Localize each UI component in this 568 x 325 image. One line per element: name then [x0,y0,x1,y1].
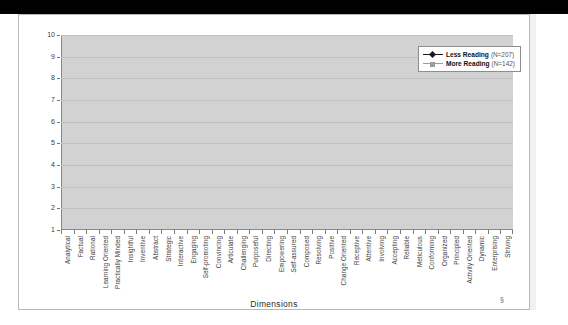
x-axis-tick-label: Empowering [278,236,285,272]
x-axis-tick [500,230,501,234]
y-axis-tick-label: 10 [47,31,55,39]
x-axis-tick-label: Involving [378,236,385,262]
x-axis-tick [337,230,338,234]
x-axis-tick [136,230,137,234]
x-axis-tick [111,230,112,234]
top-black-bar [0,0,568,14]
legend-item[interactable]: Less Reading (N=207) [423,50,515,59]
y-axis-tick-label: 7 [51,96,55,104]
x-axis-tick [287,230,288,234]
y-axis-tick [57,100,60,101]
y-axis-tick-label: 6 [51,118,55,126]
x-axis-tick-label: Inventive [139,236,146,262]
x-axis-tick [312,230,313,234]
x-axis-tick [350,230,351,234]
x-axis-tick-label: Analytical [64,236,71,264]
gridline [61,78,513,79]
x-axis-tick-label: Self-promoting [202,236,209,278]
x-axis-tick-label: Rational [89,236,96,260]
y-axis-tick [57,165,60,166]
y-axis-tick [57,35,60,36]
y-axis-tick [57,230,60,231]
gridline [61,100,513,101]
y-axis-tick-label: 8 [51,74,55,82]
x-axis-tick-label: Insightful [127,236,134,262]
gridline [61,187,513,188]
x-axis-tick [387,230,388,234]
x-axis-tick-label: Composed [303,236,310,267]
gridline [61,122,513,123]
x-axis-tick-label: Factual [77,236,84,257]
y-axis-tick-label: 2 [51,204,55,212]
x-axis-tick [463,230,464,234]
gridline [61,208,513,209]
x-axis-tick [237,230,238,234]
x-axis-tick [475,230,476,234]
y-axis-tick [57,143,60,144]
y-axis-tick-label: 4 [51,161,55,169]
x-axis-tick [488,230,489,234]
x-axis-tick-label: Reliable [403,236,410,260]
x-axis-tick-label: Change Oriented [340,236,347,285]
y-axis-tick [57,187,60,188]
legend-item[interactable]: More Reading (N=142) [423,59,515,68]
x-axis-tick [86,230,87,234]
x-axis-tick [99,230,100,234]
page-edge-shadow [530,14,536,310]
x-axis-tick [512,230,513,234]
x-axis-title: Dimensions [19,299,529,309]
legend-marker-diamond-icon [423,50,443,59]
x-axis-tick-label: Meticulous [416,236,423,267]
x-axis-tick-label: Organized [441,236,448,266]
x-axis-tick [438,230,439,234]
x-axis-tick [124,230,125,234]
legend-n: (N=142) [492,60,515,67]
gridline [61,35,513,36]
x-axis-tick [413,230,414,234]
x-axis-tick-label: Practically Minded [114,236,121,289]
x-axis-tick-label: Learning Oriented [102,236,109,288]
gridline [61,165,513,166]
x-axis-tick [187,230,188,234]
x-axis-tick-label: Conforming [428,236,435,270]
x-axis-tick-label: Interactive [177,236,184,266]
x-axis-tick [300,230,301,234]
page-artifact-mark: § [500,296,504,303]
x-axis-tick [450,230,451,234]
x-axis-tick-label: Dynamic [478,236,485,261]
legend-label: Less Reading [446,51,489,58]
x-axis-tick-label: Strategic [165,236,172,262]
x-axis-tick [375,230,376,234]
y-axis-tick-label: 9 [51,53,55,61]
x-axis-tick-label: Principled [453,236,460,265]
x-axis-tick [362,230,363,234]
x-axis-tick [400,230,401,234]
y-axis-tick-label: 5 [51,139,55,147]
chart-frame: 12345678910 AnalyticalFactualRationalLea… [18,14,530,310]
y-axis-tick [57,57,60,58]
y-axis: 12345678910 [19,35,59,231]
x-axis-tick [61,230,62,234]
gridline [61,143,513,144]
x-axis-tick-label: Self-assured [290,236,297,273]
x-axis-tick [262,230,263,234]
x-axis-tick [74,230,75,234]
x-axis-labels: AnalyticalFactualRationalLearning Orient… [61,236,513,298]
x-axis-tick-label: Abstract [152,236,159,260]
y-axis-tick [57,78,60,79]
x-axis-tick-label: Directing [265,236,272,262]
x-axis-tick-label: Purposeful [252,236,259,267]
chart-canvas: 12345678910 AnalyticalFactualRationalLea… [19,15,529,309]
x-axis-tick [212,230,213,234]
x-axis-tick-label: Articulate [227,236,234,263]
x-axis-tick-label: Enterprising [491,236,498,271]
x-axis-tick-label: Positive [328,236,335,259]
x-axis-tick [249,230,250,234]
y-axis-tick [57,122,60,123]
x-axis-ticks [61,230,513,235]
x-axis-tick-label: Convincing [215,236,222,268]
y-axis-tick-label: 3 [51,183,55,191]
x-axis-tick-label: Attentive [365,236,372,261]
x-axis-tick [224,230,225,234]
x-axis-tick [325,230,326,234]
